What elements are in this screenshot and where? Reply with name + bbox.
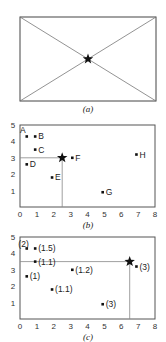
- y-tick-label: 1: [11, 187, 16, 196]
- data-point-marker: [34, 148, 37, 151]
- point-label: (1): [30, 271, 41, 281]
- y-tick-label: 3: [11, 266, 16, 275]
- y-tick-label: 4: [11, 137, 16, 146]
- caption-a: (a): [83, 104, 94, 114]
- data-point-marker: [135, 265, 138, 268]
- panel-c: 01234567812345(2)(1.5)(1.1)(1)(1.1)(1.2)…: [11, 233, 158, 342]
- x-tick-label: 0: [18, 210, 23, 219]
- x-tick-label: 3: [68, 210, 73, 219]
- point-label: (3): [106, 299, 117, 309]
- y-tick-label: 4: [11, 249, 16, 258]
- point-label: E: [55, 172, 61, 182]
- x-tick-label: 4: [85, 322, 90, 331]
- x-tick-label: 0: [18, 322, 23, 331]
- x-tick-label: 8: [153, 322, 158, 331]
- x-tick-label: 5: [102, 322, 107, 331]
- point-label: A: [20, 125, 26, 135]
- y-tick-label: 5: [11, 233, 16, 242]
- x-tick-label: 1: [35, 210, 40, 219]
- point-label: G: [106, 187, 113, 197]
- data-point-marker: [25, 135, 28, 138]
- y-tick-label: 2: [11, 282, 16, 291]
- data-point-marker: [25, 275, 28, 278]
- x-tick-label: 3: [68, 322, 73, 331]
- data-point-marker: [34, 135, 37, 138]
- data-point-marker: [34, 260, 37, 263]
- point-label: F: [75, 153, 80, 163]
- data-point-marker: [71, 157, 74, 160]
- y-tick-label: 5: [11, 121, 16, 130]
- x-tick-label: 7: [136, 322, 141, 331]
- x-tick-label: 6: [119, 322, 124, 331]
- point-label: (1.1): [55, 284, 73, 294]
- point-label: B: [38, 131, 44, 141]
- data-point-marker: [135, 153, 138, 156]
- panel-a: (a): [20, 17, 156, 114]
- data-point-marker: [51, 176, 54, 179]
- y-tick-label: 3: [11, 154, 16, 163]
- figure: (a) 01234567812345ABCDEFGH(b) 0123456781…: [0, 0, 166, 342]
- data-point-marker: [101, 303, 104, 306]
- data-point-marker: [71, 269, 74, 272]
- data-point-marker: [34, 247, 37, 250]
- x-tick-label: 4: [85, 210, 90, 219]
- data-point-marker: [51, 288, 54, 291]
- point-label: (1.2): [75, 265, 93, 275]
- point-label: D: [30, 159, 36, 169]
- data-point-marker: [25, 163, 28, 166]
- caption-c: (c): [83, 332, 93, 342]
- point-label: C: [38, 145, 44, 155]
- point-label: (1.5): [38, 243, 56, 253]
- caption-b: (b): [83, 220, 94, 230]
- x-tick-label: 8: [153, 210, 158, 219]
- x-tick-label: 2: [52, 322, 57, 331]
- point-label: (2): [18, 239, 29, 249]
- x-tick-label: 7: [136, 210, 141, 219]
- x-tick-label: 6: [119, 210, 124, 219]
- star-icon: [83, 54, 93, 64]
- x-tick-label: 5: [102, 210, 107, 219]
- y-tick-label: 2: [11, 170, 16, 179]
- x-tick-label: 1: [35, 322, 40, 331]
- x-tick-label: 2: [52, 210, 57, 219]
- point-label: (3): [139, 262, 150, 272]
- y-tick-label: 1: [11, 299, 16, 308]
- point-label: H: [139, 150, 145, 160]
- data-point-marker: [101, 191, 104, 194]
- point-label: (1.1): [38, 257, 56, 267]
- panel-b: 01234567812345ABCDEFGH(b): [11, 121, 158, 230]
